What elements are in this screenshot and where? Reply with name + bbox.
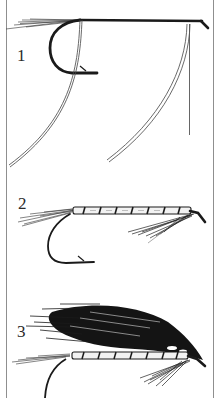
stage-2-body [73, 207, 191, 214]
stage-1-barb [80, 66, 86, 71]
stage-1-label: 1 [17, 47, 26, 64]
stage-1-tail [6, 19, 80, 29]
stage-2-hackle [128, 214, 194, 243]
stage-1-drawing [6, 19, 208, 167]
stage-3-eye [188, 356, 205, 366]
stage-3-drawing [12, 304, 205, 398]
stage-1-hook-bend [50, 20, 97, 73]
fly-tying-diagram: 1 2 3 [0, 0, 219, 398]
stage-3-hackle [140, 360, 190, 386]
stage-1-shank [80, 20, 202, 21]
illustration [0, 0, 219, 398]
stage-2-drawing [18, 207, 205, 263]
stage-2-barb [78, 256, 84, 261]
stage-3-label: 3 [17, 323, 26, 340]
stage-2-hook-bend [48, 214, 94, 263]
stage-1-strand-left [9, 20, 82, 167]
stage-3-hook-bend [45, 359, 66, 398]
stage-3-body [72, 352, 188, 359]
stage-2-eye [190, 211, 205, 222]
stage-1-strand-right [107, 24, 190, 162]
stage-1-eye [201, 21, 208, 28]
stage-2-label: 2 [18, 195, 27, 212]
